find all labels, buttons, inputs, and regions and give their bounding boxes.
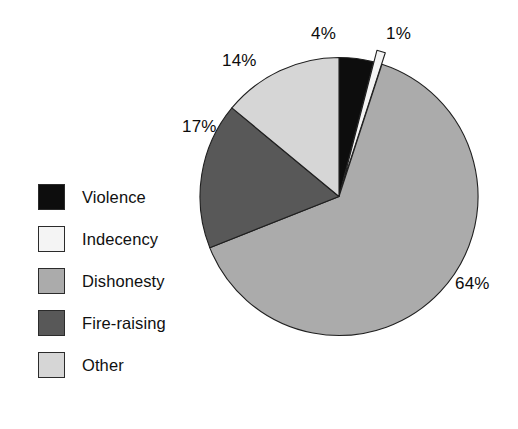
slice-value-label-violence: 4% <box>311 24 336 44</box>
pie-slices <box>200 50 478 335</box>
legend-swatch <box>38 352 65 378</box>
legend-swatch <box>38 184 65 210</box>
pie-chart-figure: 4% 1% 14% 17% 64% ViolenceIndecencyDisho… <box>0 0 518 429</box>
slice-value-label-other: 14% <box>222 51 257 71</box>
legend-item-label: Violence <box>82 188 146 207</box>
chart-legend: ViolenceIndecencyDishonestyFire-raisingO… <box>38 176 198 386</box>
legend-item[interactable]: Violence <box>38 176 198 218</box>
legend-item[interactable]: Indecency <box>38 218 198 260</box>
legend-swatch <box>38 226 65 252</box>
legend-item-label: Dishonesty <box>82 272 165 291</box>
legend-item[interactable]: Fire-raising <box>38 302 198 344</box>
legend-item-label: Indecency <box>82 230 158 249</box>
legend-item[interactable]: Dishonesty <box>38 260 198 302</box>
slice-value-label-indecency: 1% <box>386 24 411 44</box>
legend-swatch <box>38 268 65 294</box>
slice-value-label-dishonesty: 64% <box>455 274 490 294</box>
slice-value-label-fire-raising: 17% <box>182 117 217 137</box>
legend-item[interactable]: Other <box>38 344 198 386</box>
legend-swatch <box>38 310 65 336</box>
legend-item-label: Other <box>82 356 124 375</box>
legend-item-label: Fire-raising <box>82 314 166 333</box>
